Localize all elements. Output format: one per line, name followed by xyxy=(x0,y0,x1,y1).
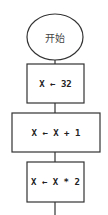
step-1-label: X ← 32 xyxy=(27,64,84,103)
start-label: 开始 xyxy=(27,14,83,60)
step-3-label: X ← X * 2 xyxy=(27,162,84,202)
step-2-label: X ← X + 1 xyxy=(12,113,100,152)
